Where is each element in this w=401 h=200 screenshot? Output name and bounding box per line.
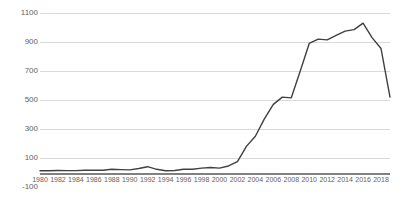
- data-series-layer: [0, 0, 401, 200]
- line-chart: -1001003005007009001100 1980198219841986…: [0, 0, 401, 200]
- series-line: [40, 23, 390, 171]
